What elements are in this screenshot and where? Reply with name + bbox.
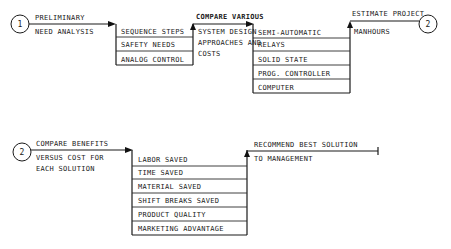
box-item: PRODUCT QUALITY <box>138 211 206 219</box>
box-item: SHIFT BREAKS SAVED <box>138 197 219 205</box>
label: PRELIMINARY <box>35 14 85 22</box>
box-item: SEMI-AUTOMATIC <box>258 29 321 37</box>
flowchart-diagram: 1 PRELIMINARY NEED ANALYSIS SEQUENCE STE… <box>0 0 451 249</box>
box-item: SEQUENCE STEPS <box>121 28 184 36</box>
connector-node-2-start: 2 <box>13 143 31 161</box>
box-item: PROG. CONTROLLER <box>258 70 331 78</box>
box-item: ANALOG CONTROL <box>121 56 184 64</box>
label: 2 <box>425 20 430 29</box>
label: 2 <box>19 148 24 157</box>
label: RECOMMEND BEST SOLUTION <box>254 141 358 149</box>
option-box-requirements: SEQUENCE STEPS SAFETY NEEDS ANALOG CONTR… <box>116 23 196 65</box>
label: ESTIMATE PROJECT <box>352 10 425 18</box>
label: SYSTEM DESIGN <box>198 28 257 36</box>
connector-node-1-start: 1 <box>11 15 29 33</box>
flow-step-compare-benefits: COMPARE BENEFITS VERSUS COST FOR EACH SO… <box>31 140 133 173</box>
box-item: SOLID STATE <box>258 56 308 64</box>
flow-step-estimate-manhours: ESTIMATE PROJECT MANHOURS <box>350 10 425 36</box>
label: COMPARE BENEFITS <box>36 140 108 148</box>
label: MANHOURS <box>354 28 390 36</box>
label: EACH SOLUTION <box>36 165 95 173</box>
arrow-up-icon <box>347 21 353 28</box>
label: VERSUS COST FOR <box>36 154 104 162</box>
label: COSTS <box>198 50 221 58</box>
box-item: TIME SAVED <box>138 169 183 177</box>
label: 1 <box>17 20 22 29</box>
label: NEED ANALYSIS <box>35 28 94 36</box>
box-item: RELAYS <box>258 41 285 49</box>
flow-step-preliminary-need-analysis: PRELIMINARY NEED ANALYSIS <box>29 14 116 36</box>
box-item: MATERIAL SAVED <box>138 183 201 191</box>
box-item: MARKETING ADVANTAGE <box>138 225 224 233</box>
box-item: LABOR SAVED <box>138 156 188 164</box>
connector-node-2-end: 2 <box>419 15 437 33</box>
option-box-control-types: SEMI-AUTOMATIC RELAYS SOLID STATE PROG. … <box>253 21 353 93</box>
arrow-right-icon <box>108 21 116 27</box>
box-item: SAFETY NEEDS <box>121 41 175 49</box>
label: TO MANAGEMENT <box>254 155 313 163</box>
flow-step-recommend-solution: RECOMMEND BEST SOLUTION TO MANAGEMENT <box>247 141 378 163</box>
option-box-benefits: LABOR SAVED TIME SAVED MATERIAL SAVED SH… <box>132 150 250 235</box>
label: COMPARE VARIOUS <box>196 13 264 21</box>
box-item: COMPUTER <box>258 84 295 92</box>
label: APPROACHES AND <box>198 39 261 47</box>
